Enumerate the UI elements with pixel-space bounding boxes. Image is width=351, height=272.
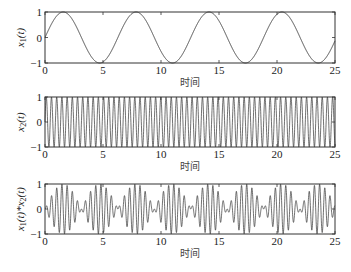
x-tick-label: 5	[100, 64, 106, 76]
x-tick-label: 0	[42, 148, 48, 160]
signal-line	[45, 12, 335, 63]
x-tick-label: 5	[100, 148, 106, 160]
y-axis-label: x1(t)	[14, 28, 28, 49]
y-tick-label: 1	[37, 6, 43, 18]
x-tick-label: 5	[100, 235, 106, 247]
subplot-1: 0510152025−101时间x1(t)	[14, 6, 341, 88]
x-tick-label: 20	[272, 148, 284, 160]
x-tick-label: 20	[272, 64, 284, 76]
x-tick-label: 0	[42, 235, 48, 247]
x-axis-label: 时间	[180, 160, 200, 172]
x-tick-label: 25	[330, 148, 342, 160]
x-axis-label: 时间	[180, 76, 200, 88]
y-tick-label: −1	[30, 228, 42, 240]
y-tick-label: −1	[30, 57, 42, 69]
x-tick-label: 25	[330, 235, 342, 247]
x-tick-label: 10	[156, 235, 168, 247]
signal-line	[45, 184, 335, 234]
x-axis-label: 时间	[180, 247, 200, 259]
x-tick-label: 20	[272, 235, 284, 247]
x-tick-label: 25	[330, 64, 342, 76]
y-tick-label: 0	[37, 32, 43, 44]
chart-figure: 0510152025−101时间x1(t)0510152025−101时间x2(…	[0, 0, 351, 272]
y-tick-label: −1	[30, 141, 42, 153]
x-tick-label: 15	[214, 235, 226, 247]
y-tick-label: 0	[37, 203, 43, 215]
x-tick-label: 10	[156, 64, 168, 76]
x-tick-label: 15	[214, 148, 226, 160]
y-axis-label: x2(t)	[14, 112, 28, 133]
y-tick-label: 1	[37, 178, 43, 190]
x-tick-label: 15	[214, 64, 226, 76]
x-tick-label: 0	[42, 64, 48, 76]
y-tick-label: 1	[37, 91, 43, 103]
axes-box	[45, 184, 335, 234]
y-axis-label: x1(t)*x2(t)	[14, 187, 28, 232]
signal-line	[45, 97, 335, 147]
subplot-2: 0510152025−101时间x2(t)	[14, 91, 341, 172]
subplot-3: 0510152025−101时间x1(t)*x2(t)	[14, 178, 341, 259]
y-tick-label: 0	[37, 116, 43, 128]
x-tick-label: 10	[156, 148, 168, 160]
